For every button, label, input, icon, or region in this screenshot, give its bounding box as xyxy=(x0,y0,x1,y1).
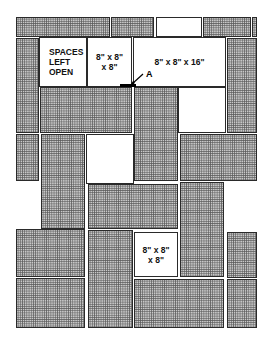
shaded-block-mid-h1 xyxy=(40,87,132,133)
cube-block-bottom-label: 8" x 8" x 8" xyxy=(134,232,178,277)
shaded-block-r1-d xyxy=(203,17,251,37)
shaded-block-right-1 xyxy=(227,38,257,133)
shaded-block-right-v1 xyxy=(180,182,224,277)
cube-block-top-label: 8" x 8" x 8" xyxy=(87,37,132,87)
shaded-block-bottom-h xyxy=(134,279,224,328)
shaded-block-r1-a xyxy=(16,17,110,37)
point-a-label: A xyxy=(146,69,153,79)
shaded-block-mid-v2 xyxy=(41,134,85,229)
shaded-block-left-h1 xyxy=(16,229,85,277)
shaded-block-right-h1 xyxy=(180,134,257,181)
open-block-open-2 xyxy=(178,87,226,133)
shaded-block-r1-e xyxy=(252,17,257,37)
shaded-block-right-2 xyxy=(227,232,257,278)
shaded-block-left-1 xyxy=(16,38,39,133)
point-a-arrow-icon xyxy=(128,72,146,88)
open-block-r1-c xyxy=(156,17,202,37)
shaded-block-mid-v3 xyxy=(88,230,133,328)
shaded-block-right-3 xyxy=(227,279,257,328)
shaded-block-r1-b xyxy=(111,17,154,37)
shaded-block-left-h2 xyxy=(16,278,85,328)
long-block-label: 8" x 8" x 16" xyxy=(133,37,226,87)
open-block-open-3 xyxy=(86,134,134,184)
spaces-left-open-label: SPACES LEFT OPEN xyxy=(39,37,87,87)
shaded-block-mid-v1 xyxy=(134,87,178,181)
shaded-block-mid-h2 xyxy=(88,184,178,229)
shaded-block-left-2 xyxy=(16,134,39,181)
